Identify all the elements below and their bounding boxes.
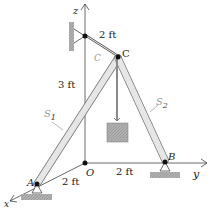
point-b-label: B (167, 151, 175, 162)
point-a-label: A (26, 177, 34, 188)
joint-b (163, 160, 168, 165)
joint-c (116, 55, 121, 60)
strut-s1 (37, 58, 118, 184)
cable-label: C (94, 53, 101, 63)
joint-origin (83, 161, 88, 166)
joint-a (35, 182, 40, 187)
point-c-label: C (122, 48, 130, 59)
x-axis-label: x (4, 199, 9, 209)
strut-s2 (118, 58, 165, 160)
wall-support (69, 22, 74, 51)
dim-height: 3 ft (58, 79, 75, 90)
dim-ob: 2 ft (116, 166, 133, 177)
strut-s1-label: S1 (44, 108, 56, 122)
strut-s2-label: S2 (156, 96, 168, 110)
truss-diagram: z y x C A B O C S1 S2 2 ft 3 ft 2 ft 2 f… (0, 0, 211, 211)
z-axis-label: z (72, 5, 79, 16)
origin-label: O (86, 167, 94, 178)
y-axis-label: y (192, 168, 200, 181)
y-axis (85, 159, 207, 167)
z-axis (81, 4, 89, 163)
joint-top-pin (83, 34, 88, 39)
hanging-weight (107, 123, 128, 142)
s1-leader (52, 122, 63, 130)
dim-cable-length: 2 ft (99, 29, 116, 40)
dim-oa: 2 ft (62, 176, 79, 187)
